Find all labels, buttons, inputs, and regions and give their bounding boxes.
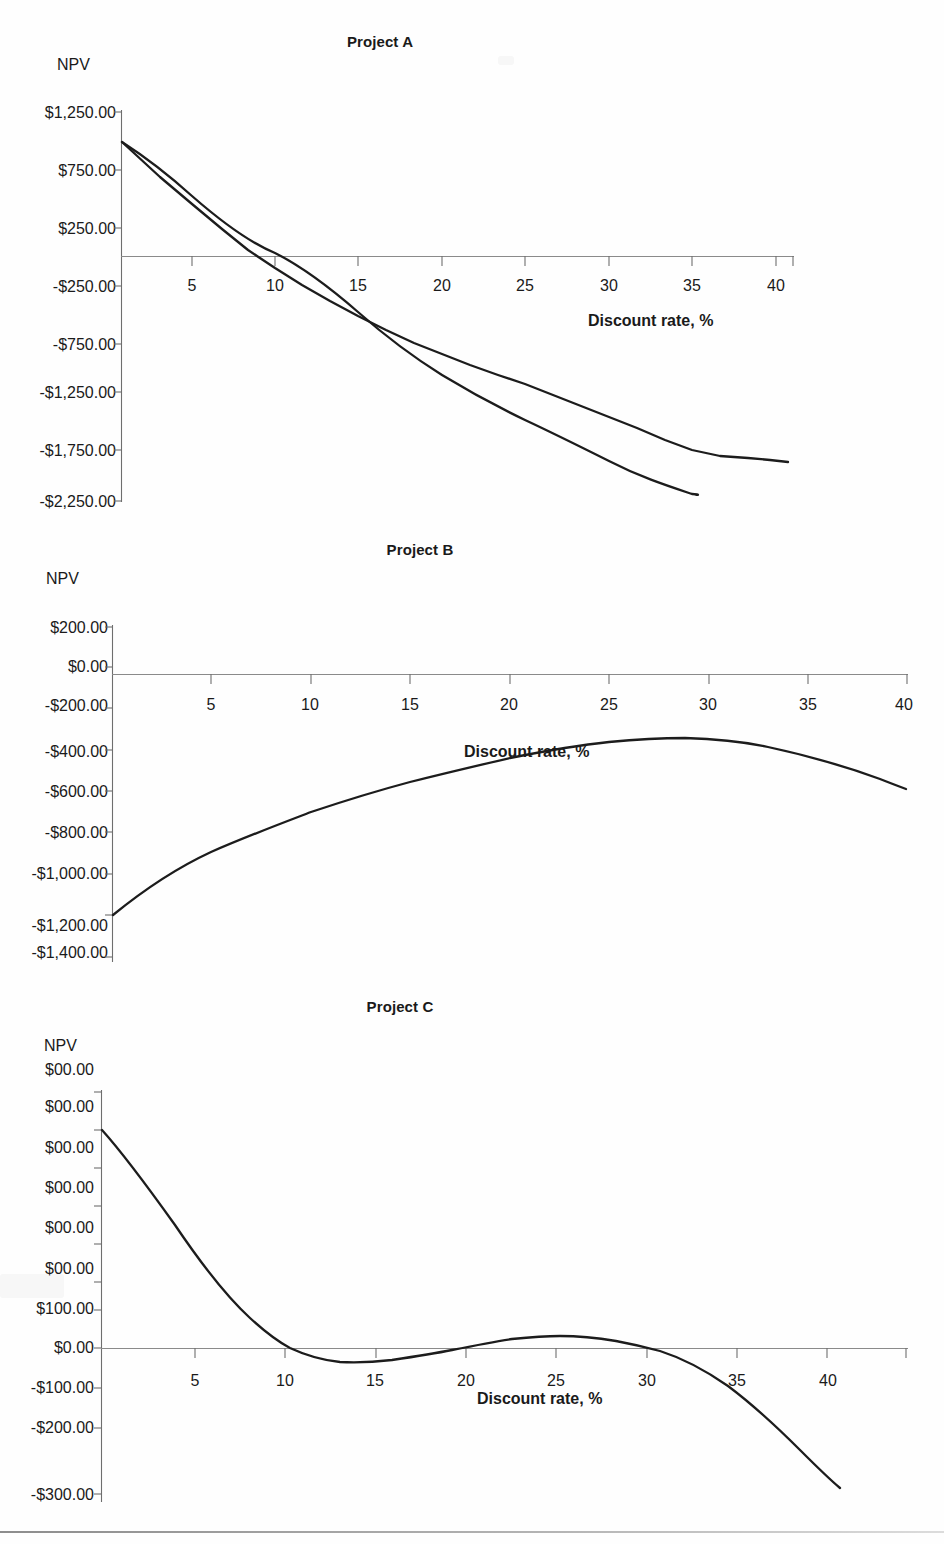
document-page: Project A NPV $1,250.00 $750.00 $250.00 …	[0, 0, 944, 1544]
page-bottom-rule	[0, 1531, 944, 1533]
series-line-c	[102, 1130, 840, 1488]
chart-c-canvas	[0, 0, 944, 1544]
